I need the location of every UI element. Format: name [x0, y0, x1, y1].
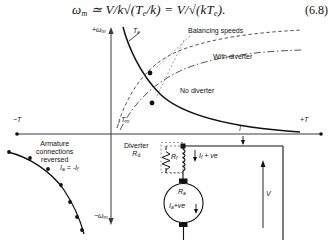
- balancing-point-upper: [148, 71, 153, 76]
- brush-bottom: [179, 223, 188, 228]
- label-field-current: If + ve: [199, 152, 218, 161]
- label-armature-current-equation: Ia = -If: [60, 164, 78, 173]
- label-no-diverter: No diverter: [180, 87, 214, 95]
- axis-label-omega-negative: −ωm: [94, 212, 108, 221]
- axis-label-t-positive: +T: [300, 116, 308, 124]
- axes: [16, 30, 322, 222]
- label-supply-voltage: V: [266, 190, 271, 198]
- equation-term2: (kT: [196, 2, 214, 17]
- curve-te-solid: [123, 27, 300, 132]
- label-line-current: I: [239, 125, 241, 133]
- equation-line: ωm ≃ V/k√(Te/k) = V/√(kTe). (6.8): [0, 2, 334, 24]
- armature-current-arrowhead: [194, 209, 198, 214]
- label-armature-current: Ia+ve: [169, 202, 185, 211]
- figure-area: +ωm −ωm −T +T Te Tm Balancing speeds Wit…: [0, 24, 334, 240]
- figure-page: ωm ≃ V/k√(Te/k) = V/√(kTe). (6.8): [0, 0, 334, 240]
- balancing-point-lower: [150, 101, 155, 106]
- label-armature-resistance: Ra: [178, 188, 186, 197]
- equation-main: ≃ V/k: [91, 2, 124, 17]
- line-current-arrowhead: [241, 140, 245, 145]
- axis-label-omega-positive: +ωm: [92, 26, 106, 35]
- radical-2: √: [189, 2, 196, 17]
- equation-term1: (T: [131, 2, 143, 17]
- label-armature-reversed: Armature connections reversed: [36, 140, 73, 164]
- equation-body: ωm ≃ V/k√(Te/k) = V/√(kTe).: [72, 2, 226, 18]
- label-with-diverter: With diverter: [213, 53, 252, 61]
- label-diverter: Diverter Rd: [124, 142, 149, 159]
- y-axis-arrow-up: [108, 27, 113, 34]
- equation-lhs: ωm: [72, 2, 87, 17]
- x-axis-right-cap: [319, 132, 323, 136]
- curve-label-tm: Tm: [121, 116, 129, 125]
- curve-no-diverter: [117, 30, 302, 128]
- field-winding-coil: [183, 149, 185, 171]
- equation-term2-end: ).: [218, 2, 226, 17]
- voltage-arrowhead: [261, 160, 266, 167]
- axis-label-t-negative: −T: [13, 116, 21, 124]
- x-axis-left-cap: [15, 132, 19, 136]
- label-field-resistor: Rf: [171, 153, 177, 162]
- equation-number: (6.8): [305, 3, 328, 18]
- plot-and-circuit-svg: [0, 24, 334, 240]
- field-current-arrowhead: [193, 157, 197, 162]
- radical-1: √: [123, 2, 130, 17]
- brush-top: [179, 179, 188, 184]
- diverter-resistor-zigzag: [162, 152, 170, 170]
- label-balancing-speeds: Balancing speeds: [188, 27, 243, 35]
- equation-term1-end: /k) = V/: [146, 2, 188, 17]
- curve-label-te: Te: [133, 27, 140, 36]
- tm-leader: [117, 120, 120, 128]
- y-axis-arrow-down: [108, 218, 113, 225]
